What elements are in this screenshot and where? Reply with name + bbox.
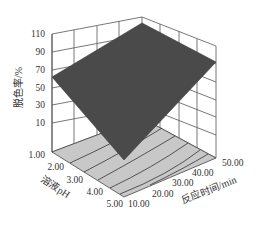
svg-text:50: 50 [36, 83, 46, 93]
svg-text:70: 70 [36, 65, 46, 75]
svg-text:90: 90 [36, 47, 46, 57]
response-surface [52, 23, 216, 160]
surface-plot: 110 90 70 50 30 10 脱色率/% 1.00 2.00 3.00 … [0, 0, 261, 225]
svg-text:30: 30 [36, 100, 46, 110]
svg-text:5.00: 5.00 [106, 199, 123, 209]
svg-text:20.00: 20.00 [152, 189, 174, 199]
svg-text:110: 110 [31, 29, 45, 39]
svg-text:10: 10 [36, 118, 46, 128]
svg-text:1.00: 1.00 [28, 150, 45, 160]
svg-text:10.00: 10.00 [128, 199, 150, 209]
svg-text:2.00: 2.00 [47, 162, 64, 172]
svg-text:4.00: 4.00 [86, 187, 103, 197]
svg-text:50.00: 50.00 [222, 158, 244, 168]
svg-text:30.00: 30.00 [172, 178, 194, 188]
z-axis-label: 脱色率/% [12, 67, 24, 108]
svg-text:3.00: 3.00 [66, 175, 83, 185]
z-axis: 110 90 70 50 30 10 脱色率/% [12, 29, 52, 152]
svg-text:40.00: 40.00 [192, 168, 214, 178]
